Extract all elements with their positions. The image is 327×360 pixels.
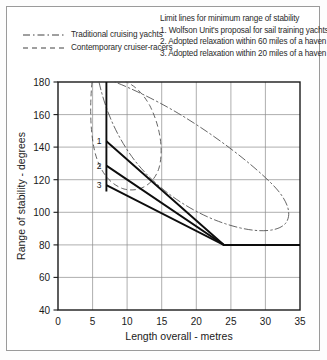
limit-line-number-labels: 1 2 3 [97, 136, 102, 190]
x-tick-30: 30 [260, 316, 272, 327]
y-axis-title: Range of stability - degrees [15, 132, 27, 260]
x-axis-title: Length overall - metres [125, 330, 232, 342]
curve-label-2: 2 [97, 161, 102, 171]
x-tick-labels: 0 5 10 15 20 25 30 35 [55, 316, 306, 327]
x-tick-35: 35 [294, 316, 306, 327]
y-tick-120: 120 [33, 175, 50, 186]
y-tick-40: 40 [39, 305, 51, 316]
x-tick-5: 5 [90, 316, 96, 327]
x-tick-20: 20 [191, 316, 203, 327]
y-tick-60: 60 [39, 272, 51, 283]
x-tick-10: 10 [122, 316, 134, 327]
plot-background [58, 82, 300, 310]
y-tick-140: 140 [33, 142, 50, 153]
y-tick-180: 180 [33, 77, 50, 88]
x-tick-0: 0 [55, 316, 61, 327]
curve-label-3: 3 [97, 180, 102, 190]
y-tick-100: 100 [33, 207, 50, 218]
x-tick-15: 15 [156, 316, 168, 327]
y-tick-labels: 180 160 140 120 100 80 60 40 [33, 77, 50, 316]
y-tick-80: 80 [39, 240, 51, 251]
chart-svg: 180 160 140 120 100 80 60 40 0 5 10 15 2… [0, 0, 327, 360]
curve-label-1: 1 [97, 136, 102, 146]
y-tick-160: 160 [33, 110, 50, 121]
x-tick-25: 25 [225, 316, 237, 327]
plot-area: 180 160 140 120 100 80 60 40 0 5 10 15 2… [0, 0, 327, 360]
stability-chart-figure: Traditional cruising yachts Contemporary… [0, 0, 327, 360]
